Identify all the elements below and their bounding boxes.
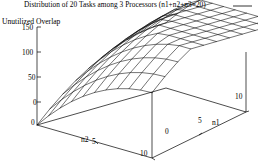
- z-tick-label-100: 100: [22, 49, 33, 56]
- x-tick-label-5: 5: [92, 138, 96, 145]
- surface-mesh: [37, 0, 258, 125]
- bounding-box-verticals: [152, 52, 246, 158]
- chart-title: Distribution of 20 Tasks among 3 Process…: [24, 1, 206, 8]
- y-axis-label: n1: [212, 119, 220, 127]
- x-axis-label: n2: [81, 136, 89, 144]
- x-tick-label-0: 0: [31, 119, 35, 126]
- z-tick-label-0: 0: [33, 99, 37, 106]
- y-tick-label-0: 0: [165, 128, 169, 135]
- z-axis-line: [37, 27, 41, 125]
- y-tick-label-10: 10: [235, 93, 242, 100]
- y-tick-label-5: 5: [198, 117, 202, 124]
- floor-tick-marks: [95, 111, 249, 160]
- z-tick-label-150: 150: [22, 24, 33, 31]
- z-tick-label-50: 50: [28, 74, 35, 81]
- surface-plot-figure: Distribution of 20 Tasks among 3 Process…: [0, 0, 258, 162]
- x-tick-label-10: 10: [140, 150, 147, 157]
